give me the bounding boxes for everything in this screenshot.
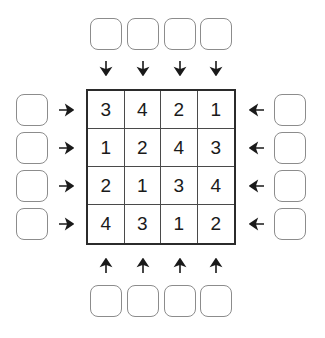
clue-box-right-3[interactable] [274,170,306,202]
grid-cell[interactable]: 4 [88,205,125,243]
clue-box-right-4[interactable] [274,208,306,240]
arrow-right-icon [58,216,74,232]
arrow-up-icon [172,258,188,274]
grid-cell[interactable]: 1 [161,205,198,243]
arrow-right-icon [58,178,74,194]
grid-cell[interactable]: 3 [161,167,198,205]
clue-box-bottom-3[interactable] [164,285,196,317]
grid-cell[interactable]: 4 [198,167,235,205]
arrow-right-icon [58,140,74,156]
grid-cell[interactable]: 2 [198,205,235,243]
grid-cell[interactable]: 4 [161,129,198,167]
clue-box-left-4[interactable] [16,208,48,240]
arrow-down-icon [135,60,151,76]
arrow-right-icon [58,102,74,118]
grid-cell[interactable]: 2 [161,91,198,129]
arrow-down-icon [172,60,188,76]
grid-cell[interactable]: 1 [198,91,235,129]
clue-box-right-1[interactable] [274,94,306,126]
arrow-up-icon [135,258,151,274]
grid-cell[interactable]: 3 [125,205,162,243]
grid-cell[interactable]: 2 [125,129,162,167]
clue-box-left-3[interactable] [16,170,48,202]
arrow-down-icon [208,60,224,76]
clue-box-top-3[interactable] [164,18,196,50]
grid-cell[interactable]: 3 [88,91,125,129]
clue-box-bottom-4[interactable] [200,285,232,317]
puzzle-container: 3 4 2 1 1 2 4 3 2 1 3 4 4 3 1 2 [0,0,325,338]
grid-cell[interactable]: 2 [88,167,125,205]
arrow-down-icon [98,60,114,76]
clue-box-top-1[interactable] [90,18,122,50]
grid-cell[interactable]: 3 [198,129,235,167]
puzzle-grid: 3 4 2 1 1 2 4 3 2 1 3 4 4 3 1 2 [86,89,236,245]
clue-box-top-2[interactable] [127,18,159,50]
arrow-left-icon [249,216,265,232]
clue-box-bottom-2[interactable] [127,285,159,317]
grid-cell[interactable]: 1 [125,167,162,205]
grid-cell[interactable]: 1 [88,129,125,167]
arrow-left-icon [249,140,265,156]
arrow-left-icon [249,178,265,194]
grid-cell[interactable]: 4 [125,91,162,129]
clue-box-left-1[interactable] [16,94,48,126]
clue-box-top-4[interactable] [200,18,232,50]
arrow-left-icon [249,102,265,118]
arrow-up-icon [98,258,114,274]
clue-box-left-2[interactable] [16,132,48,164]
clue-box-right-2[interactable] [274,132,306,164]
clue-box-bottom-1[interactable] [90,285,122,317]
arrow-up-icon [208,258,224,274]
